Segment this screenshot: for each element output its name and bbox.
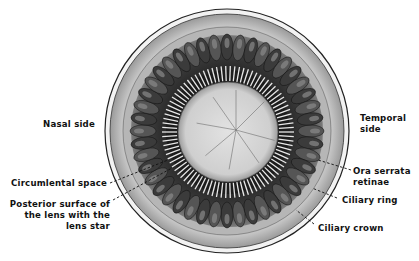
label-posterior-line-3: lens star [10,221,110,232]
label-temporal-line-2: side [360,124,406,135]
label-posterior-surface: Posterior surface of the lens with the l… [10,199,110,232]
label-ora-line-2: retinae [353,177,411,188]
label-temporal-side: Temporal side [360,113,406,135]
label-temporal-line-1: Temporal [360,113,406,124]
label-posterior-line-2: the lens with the [10,210,110,221]
label-ciliary-ring: Ciliary ring [342,195,398,206]
label-posterior-line-1: Posterior surface of [10,199,110,210]
label-ciliary-crown: Ciliary crown [318,223,384,234]
lens [178,82,278,182]
label-nasal-side: Nasal side [43,119,95,130]
label-circumlental-space: Circumlental space [11,178,107,189]
label-ora-serrata: Ora serrata retinae [353,166,411,188]
label-ora-line-1: Ora serrata [353,166,411,177]
